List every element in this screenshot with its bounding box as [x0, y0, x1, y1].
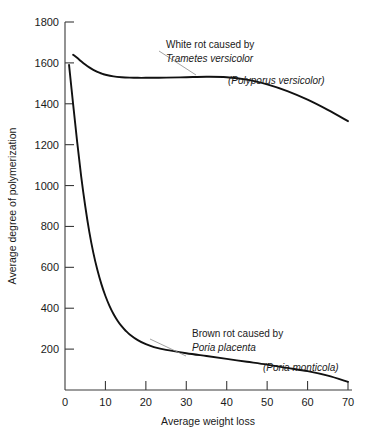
y-tick-label: 200: [41, 343, 59, 355]
brown-rot-annotation: Brown rot caused by Poria placenta (Pori…: [150, 328, 339, 373]
white-rot-annotation-line1: White rot caused by: [166, 39, 254, 50]
x-tick-label: 20: [140, 396, 152, 408]
x-tick-label: 60: [301, 396, 313, 408]
white-rot-annotation: White rot caused by Trametes versicolor …: [159, 39, 325, 86]
y-tick-label: 600: [41, 261, 59, 273]
x-tick-label: 70: [342, 396, 354, 408]
y-tick-label: 1000: [35, 180, 59, 192]
x-axis-ticks: [105, 381, 348, 390]
y-axis-tick-labels: 20040060080010001200140016001800: [35, 16, 59, 355]
y-axis-title: Average degree of polymerization: [6, 127, 18, 284]
brown-rot-annotation-line1: Brown rot caused by: [192, 328, 283, 339]
y-tick-label: 800: [41, 220, 59, 232]
x-tick-label: 50: [261, 396, 273, 408]
chart-figure: 20040060080010001200140016001800 Average…: [0, 0, 368, 436]
x-tick-label: 10: [99, 396, 111, 408]
white-rot-curve: [73, 55, 348, 121]
y-tick-label: 1200: [35, 139, 59, 151]
y-axis: 20040060080010001200140016001800 Average…: [6, 16, 74, 390]
x-axis-title: Average weight loss: [161, 415, 255, 427]
y-tick-label: 400: [41, 302, 59, 314]
brown-rot-annotation-line3: (Poria monticola): [263, 362, 339, 373]
x-axis: 010203040506070 Average weight loss: [62, 381, 354, 427]
y-tick-label: 1800: [35, 16, 59, 28]
x-tick-label: 40: [221, 396, 233, 408]
white-rot-annotation-line2: Trametes versicolor: [166, 53, 254, 64]
y-tick-label: 1400: [35, 98, 59, 110]
white-rot-annotation-line3: (Polyporus versicolor): [228, 75, 325, 86]
x-tick-label: 0: [62, 396, 68, 408]
x-axis-tick-labels: 010203040506070: [62, 396, 354, 408]
x-tick-label: 30: [180, 396, 192, 408]
chart-canvas: 20040060080010001200140016001800 Average…: [0, 0, 368, 436]
y-tick-label: 1600: [35, 57, 59, 69]
brown-rot-annotation-line2: Poria placenta: [192, 342, 256, 353]
